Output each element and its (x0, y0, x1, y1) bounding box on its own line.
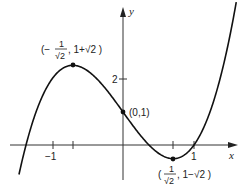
y-intercept-point (121, 110, 126, 115)
y-axis-label: y (128, 5, 134, 17)
x-axis-arrow-icon (228, 142, 238, 148)
svg-text:1: 1 (59, 39, 64, 49)
cubic-curve (19, 2, 236, 174)
local-min-point (171, 157, 176, 162)
svg-text:, 1+√2 ): , 1+√2 ) (68, 44, 102, 55)
local-max-point (71, 63, 76, 68)
local-max-label: (− 1 √2 , 1+√2 ) (41, 39, 102, 61)
svg-text:1: 1 (169, 164, 174, 174)
svg-text:√2: √2 (55, 51, 65, 61)
y-axis-arrow-icon (120, 7, 126, 17)
y-intercept-label: (0,1) (129, 107, 150, 118)
svg-text:, 1−√2 ): , 1−√2 ) (177, 169, 211, 180)
x-tick-label-1: 1 (191, 151, 197, 162)
x-axis-label: x (228, 149, 234, 161)
svg-text:(−: (− (41, 44, 50, 55)
function-plot: x y −1 1 2 (− 1 √2 , 1+√2 ) (0,1) ( 1 √2… (0, 0, 244, 192)
local-min-label: ( 1 √2 , 1−√2 ) (158, 164, 211, 186)
y-tick-label-2: 2 (112, 74, 118, 85)
svg-text:√2: √2 (164, 176, 174, 186)
svg-text:(: ( (158, 169, 162, 180)
x-tick-label-neg1: −1 (45, 151, 57, 162)
